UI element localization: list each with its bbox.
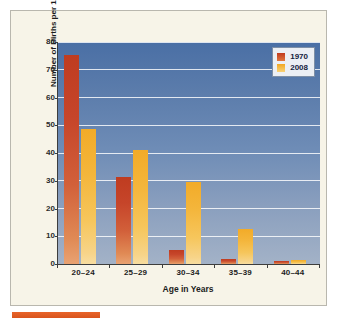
y-tick-label: 70 [33, 65, 55, 74]
bar-group [110, 42, 162, 264]
x-tick-label: 35–39 [214, 268, 266, 277]
bar-2008-40-44 [291, 260, 306, 264]
y-tick-label: 10 [33, 231, 55, 240]
chart-legend: 1970 2008 [272, 47, 315, 77]
x-tick-label: 30–34 [162, 268, 214, 277]
x-tick-mark [319, 264, 320, 268]
x-tick-mark [57, 264, 58, 268]
bar-2008-25-29 [133, 150, 148, 264]
x-tick-label: 25–29 [110, 268, 162, 277]
bar-1970-25-29 [116, 177, 131, 264]
legend-item-1970: 1970 [277, 51, 308, 62]
bar-2008-30-34 [186, 182, 201, 264]
figure-page: Number of Births per 1,000 Women 0102030… [0, 0, 337, 321]
y-tick-label: 80 [33, 37, 55, 46]
bar-2008-35-39 [238, 229, 253, 264]
y-tick-label: 40 [33, 148, 55, 157]
bar-1970-20-24 [64, 55, 79, 265]
legend-label-2008: 2008 [290, 63, 308, 73]
bar-1970-40-44 [274, 261, 289, 264]
bar-2008-20-24 [81, 129, 96, 264]
x-tick-label: 20–24 [57, 268, 109, 277]
chart-area: Number of Births per 1,000 Women 0102030… [57, 32, 319, 274]
y-tick-label: 50 [33, 120, 55, 129]
bar-group [215, 42, 267, 264]
x-axis-title: Age in Years [57, 284, 319, 294]
y-tick-label: 0 [33, 259, 55, 268]
bar-group [163, 42, 215, 264]
y-tick-label: 20 [33, 204, 55, 213]
legend-swatch-2008-icon [277, 64, 285, 72]
legend-swatch-1970-icon [277, 53, 285, 61]
figure-panel: Number of Births per 1,000 Women 0102030… [10, 10, 327, 306]
bar-1970-30-34 [169, 250, 184, 264]
legend-item-2008: 2008 [277, 62, 308, 73]
y-tick-label: 60 [33, 93, 55, 102]
bar-1970-35-39 [221, 259, 236, 264]
plot-area: 1970 2008 [57, 42, 320, 265]
bar-group [58, 42, 110, 264]
legend-label-1970: 1970 [290, 52, 308, 62]
y-tick-label: 30 [33, 176, 55, 185]
y-axis-ticks: 01020304050607080 [31, 42, 55, 264]
decorative-accent-rule [12, 312, 100, 318]
x-tick-label: 40–44 [267, 268, 319, 277]
